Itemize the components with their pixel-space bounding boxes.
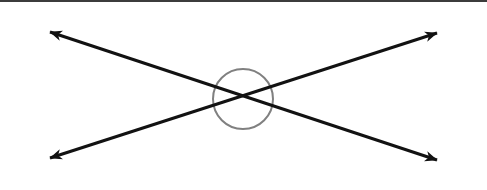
lines-group bbox=[50, 32, 437, 160]
angle-arc-circle bbox=[213, 69, 273, 129]
diagram-canvas bbox=[0, 0, 487, 190]
intersecting-lines-figure bbox=[0, 0, 487, 190]
angle-arc-circle-group bbox=[213, 69, 273, 129]
